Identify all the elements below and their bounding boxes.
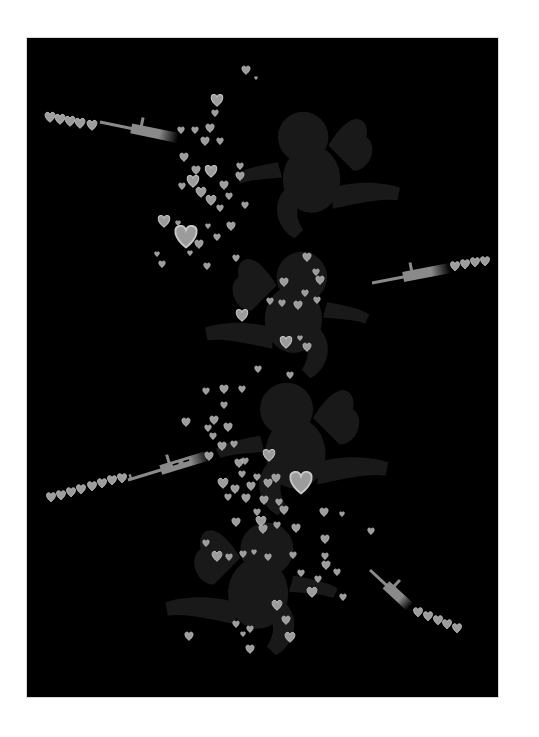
heart-icon [423, 612, 432, 621]
heart-icon [322, 553, 329, 560]
heart-icon [187, 176, 198, 188]
heart-icon [246, 645, 254, 653]
heart-icon [206, 124, 214, 132]
heart-icon [290, 472, 311, 494]
heart-icon [159, 261, 166, 268]
heart-icon [227, 222, 235, 230]
artwork-scene [0, 0, 539, 737]
heart-icon [237, 163, 244, 170]
heart-icon [212, 110, 219, 117]
heart-icon [233, 255, 240, 262]
heart-icon [203, 388, 210, 395]
heart-icon [232, 518, 240, 526]
heart-icon [460, 260, 469, 269]
rifle-top-icon [99, 109, 181, 143]
heart-icon [321, 535, 329, 543]
cupid-top-icon [236, 112, 400, 238]
heart-icon [214, 234, 221, 241]
heart-icon [452, 624, 461, 633]
heart-icon [217, 138, 224, 145]
heart-icon [55, 114, 65, 124]
heart-icon [239, 386, 246, 393]
heart-icon [66, 488, 75, 497]
heart-icon [242, 494, 250, 502]
heart-icon [225, 494, 232, 501]
cupid-second-icon [205, 252, 369, 378]
heart-icon [413, 608, 422, 617]
heart-icon [239, 471, 246, 478]
heart-icon [450, 262, 459, 271]
heart-icon [178, 127, 185, 134]
heart-icon [65, 116, 75, 126]
heart-icon [242, 202, 249, 209]
heart-icon [233, 621, 240, 628]
heart-icon [217, 205, 224, 212]
heart-icon [340, 594, 347, 601]
heart-icon [280, 506, 288, 514]
rifle-bottom-icon [367, 560, 419, 610]
heart-icon [292, 524, 300, 532]
heart-icon [334, 569, 341, 576]
heart-icon [224, 423, 232, 431]
heart-icon [76, 485, 85, 494]
heart-icon [287, 372, 294, 379]
heart-icon [221, 402, 228, 409]
heart-icon [480, 257, 489, 266]
rifle-third-icon [124, 443, 211, 485]
heart-icon [155, 252, 160, 257]
heart-icon [158, 216, 169, 228]
heart-icon [254, 474, 261, 481]
heart-icon [206, 224, 211, 229]
heart-icon [322, 561, 330, 569]
heart-icon [87, 120, 97, 130]
heart-icon [87, 482, 96, 491]
heart-icon [340, 512, 345, 517]
heart-icon [254, 509, 261, 516]
heart-icon [97, 479, 106, 488]
heart-icon [195, 240, 203, 248]
heart-icon [226, 193, 233, 200]
heart-icon [45, 112, 55, 122]
heart-icon [211, 95, 222, 107]
heart-icon [247, 482, 255, 490]
heart-icon [242, 66, 250, 74]
heart-icon [204, 263, 211, 270]
heart-icon [56, 491, 65, 500]
heart-icon [176, 221, 181, 226]
heart-icon [307, 587, 317, 597]
heart-icon [298, 570, 305, 577]
heart-icon [210, 433, 217, 440]
heart-icon [220, 385, 228, 393]
heart-icon [205, 166, 216, 178]
heart-icon [236, 310, 247, 322]
heart-icon [254, 76, 257, 79]
heart-icon [192, 166, 200, 174]
heart-icon [433, 616, 442, 625]
heart-icon [442, 620, 451, 629]
heart-icon [107, 476, 116, 485]
heart-icon [182, 418, 190, 426]
heart-icon [206, 195, 216, 205]
heart-icon [220, 181, 228, 189]
heart-icon [201, 137, 209, 145]
heart-icon [470, 258, 479, 267]
heart-icon [188, 251, 193, 256]
heart-icon [368, 528, 375, 535]
heart-icon [205, 425, 212, 432]
heart-icon [180, 153, 188, 161]
heart-icon [46, 493, 55, 502]
heart-icon [185, 632, 193, 640]
heart-icon [117, 474, 126, 483]
heart-icon [231, 485, 239, 493]
heart-icon [210, 416, 218, 424]
heart-icon [241, 632, 246, 637]
heart-icon [175, 226, 196, 248]
rifle-second-icon [370, 255, 451, 288]
heart-icon [247, 626, 254, 633]
heart-icon [192, 127, 199, 134]
heart-icon [75, 118, 85, 128]
heart-icon [218, 478, 228, 488]
heart-icon [196, 187, 206, 197]
heart-icon [179, 183, 186, 190]
heart-icon [320, 508, 328, 516]
